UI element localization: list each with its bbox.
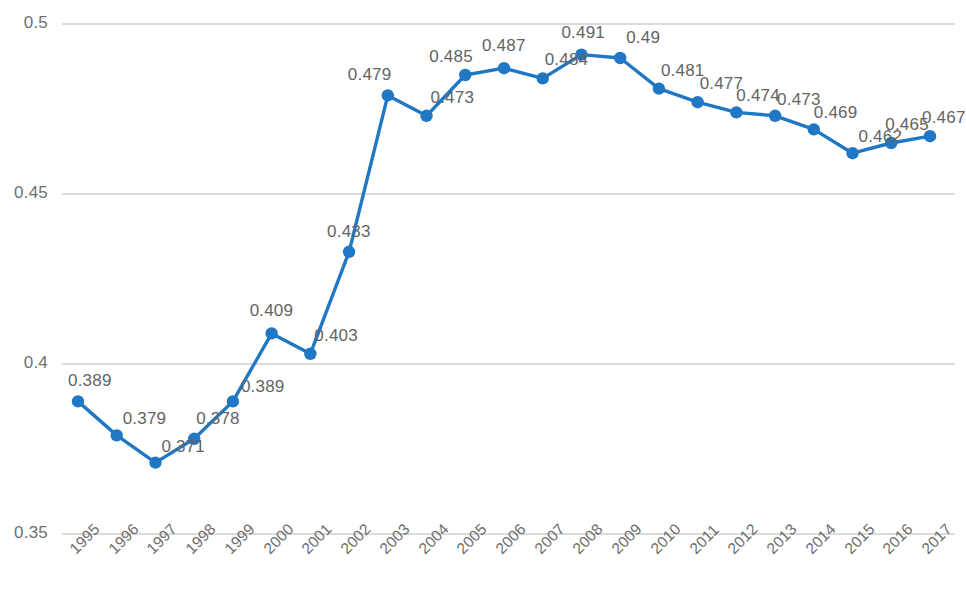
y-axis-tick-label: 0.35 — [0, 523, 48, 543]
series-line — [78, 55, 930, 463]
data-point-marker[interactable] — [227, 395, 239, 407]
data-series — [78, 55, 930, 463]
data-point-marker[interactable] — [498, 62, 510, 74]
data-point-marker[interactable] — [537, 72, 549, 84]
data-point-label: 0.378 — [196, 409, 240, 429]
data-point-label: 0.409 — [250, 301, 294, 321]
data-point-marker[interactable] — [653, 82, 665, 94]
data-point-label: 0.467 — [922, 108, 966, 128]
data-point-label: 0.379 — [123, 409, 167, 429]
data-point-marker[interactable] — [730, 106, 742, 118]
gridlines — [62, 24, 955, 534]
data-point-label: 0.487 — [482, 36, 526, 56]
data-point-label: 0.389 — [241, 377, 285, 397]
data-point-label: 0.403 — [314, 326, 358, 346]
data-point-marker[interactable] — [149, 456, 161, 468]
data-point-marker[interactable] — [111, 429, 123, 441]
y-axis-tick-label: 0.4 — [0, 353, 48, 373]
data-point-marker[interactable] — [382, 89, 394, 101]
data-point-marker[interactable] — [265, 327, 277, 339]
y-axis-tick-label: 0.45 — [0, 183, 48, 203]
data-point-marker[interactable] — [769, 110, 781, 122]
data-point-label: 0.485 — [429, 47, 473, 67]
data-point-marker[interactable] — [459, 69, 471, 81]
data-point-label: 0.474 — [736, 86, 780, 106]
data-point-marker[interactable] — [846, 147, 858, 159]
data-point-label: 0.371 — [161, 437, 205, 457]
data-point-label: 0.484 — [545, 50, 589, 70]
data-point-label: 0.49 — [626, 28, 660, 48]
data-point-label: 0.433 — [327, 222, 371, 242]
data-point-label: 0.479 — [348, 65, 392, 85]
data-point-marker[interactable] — [691, 96, 703, 108]
data-point-label: 0.389 — [68, 371, 112, 391]
data-point-label: 0.473 — [431, 88, 475, 108]
data-markers — [72, 48, 936, 468]
data-point-label: 0.481 — [661, 61, 705, 81]
data-point-marker[interactable] — [614, 52, 626, 64]
y-axis-tick-label: 0.5 — [0, 13, 48, 33]
data-point-label: 0.469 — [814, 103, 858, 123]
data-point-marker[interactable] — [343, 246, 355, 258]
data-point-marker[interactable] — [420, 110, 432, 122]
data-point-label: 0.491 — [561, 23, 605, 43]
data-point-marker[interactable] — [304, 348, 316, 360]
data-point-marker[interactable] — [808, 123, 820, 135]
data-point-marker[interactable] — [72, 395, 84, 407]
